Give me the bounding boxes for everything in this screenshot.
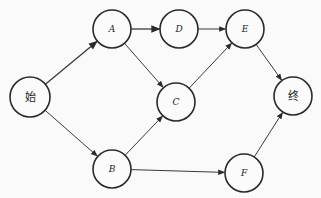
node-label: A (108, 24, 116, 34)
node-label: F (240, 168, 248, 178)
node-label: E (241, 24, 249, 34)
network-diagram: 始ADECBF终 (0, 0, 321, 198)
node-label: 终 (288, 89, 299, 103)
edge-B-to-F (131, 170, 225, 173)
node-F: F (225, 154, 263, 192)
node-D: D (160, 10, 198, 48)
node-E: E (226, 10, 264, 48)
edge-F-to-end (254, 113, 282, 158)
node-label: 始 (25, 90, 36, 104)
nodes-layer: 始ADECBF终 (10, 10, 312, 192)
node-B: B (93, 150, 131, 188)
node-start: 始 (10, 77, 50, 117)
edge-start-to-B (45, 110, 97, 156)
node-C: C (157, 83, 195, 121)
edge-start-to-A (45, 41, 97, 84)
edge-C-to-E (189, 43, 232, 88)
edge-B-to-C (125, 116, 162, 155)
edge-E-to-end (256, 44, 282, 80)
node-end: 终 (274, 77, 312, 115)
node-label: C (173, 97, 180, 107)
node-label: D (174, 24, 182, 34)
node-A: A (93, 10, 131, 48)
edge-A-to-C (125, 43, 164, 87)
node-label: B (108, 164, 116, 174)
